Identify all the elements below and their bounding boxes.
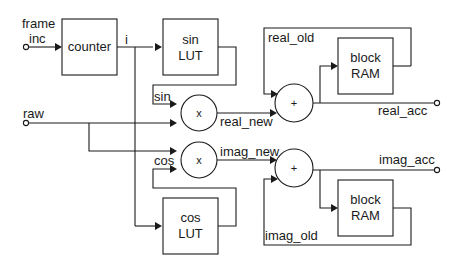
real-acc-port [434, 100, 439, 105]
imag-acc-label: imag_acc [379, 152, 435, 167]
real-acc-label: real_acc [378, 103, 428, 118]
multiplier-real: x [181, 95, 217, 131]
multiplier-imag: x [181, 142, 217, 178]
signal-flow-diagram: frame inc counter i sin LUT sin raw [0, 0, 464, 263]
svg-text:x: x [196, 154, 202, 166]
cos-label: cos [154, 153, 175, 168]
frame-inc-input: frame inc [22, 16, 62, 51]
raw-label: raw [23, 106, 45, 121]
real-new-label: real_new [220, 114, 273, 129]
raw-input: raw [23, 106, 177, 155]
counter-label: counter [68, 39, 112, 54]
arrow-head-icon [55, 43, 62, 51]
real-old-label: real_old [268, 30, 314, 45]
signal-real-new: real_new [217, 109, 277, 129]
frame-label: frame [22, 16, 55, 31]
svg-text:RAM: RAM [351, 208, 380, 223]
counter-block: counter [62, 19, 117, 75]
svg-text:+: + [291, 97, 297, 109]
signal-i: i [117, 32, 162, 230]
inc-label: inc [29, 31, 46, 46]
svg-text:block: block [350, 50, 381, 65]
svg-text:x: x [196, 107, 202, 119]
svg-text:sin: sin [182, 32, 199, 47]
svg-text:cos: cos [180, 210, 201, 225]
adder-imag: + [275, 149, 313, 187]
signal-imag-new: imag_new [217, 144, 280, 164]
svg-text:LUT: LUT [178, 226, 203, 241]
imag-acc-port [434, 167, 439, 172]
adder-real: + [275, 84, 313, 122]
svg-text:+: + [291, 162, 297, 174]
svg-text:LUT: LUT [178, 48, 203, 63]
sin-lut-block: sin LUT [163, 19, 218, 75]
sin-label: sin [154, 89, 171, 104]
svg-text:block: block [350, 192, 381, 207]
imag-new-label: imag_new [220, 144, 280, 159]
svg-text:RAM: RAM [351, 66, 380, 81]
block-ram-real: block RAM [338, 38, 411, 94]
cos-lut-block: cos LUT [163, 198, 218, 254]
raw-port [23, 120, 28, 125]
frame-inc-port [23, 44, 28, 49]
block-ram-imag: block RAM [338, 180, 393, 236]
i-label: i [125, 32, 128, 47]
imag-old-label: imag_old [265, 228, 318, 243]
